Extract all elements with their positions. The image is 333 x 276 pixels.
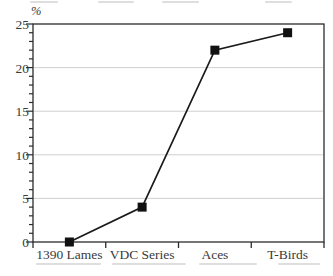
plot-frame bbox=[33, 24, 324, 242]
data-point-marker bbox=[283, 28, 292, 37]
data-point-marker bbox=[210, 46, 219, 55]
line-chart: 0 5 10 15 20 25 1390 Lames VDC Series Ac… bbox=[0, 0, 333, 276]
plot-area bbox=[26, 24, 324, 248]
cropped-text-artifact-bottom bbox=[112, 263, 186, 265]
x-category-label: 1390 Lames bbox=[36, 247, 102, 262]
y-tick-label: 0 bbox=[22, 235, 29, 250]
y-tick-label: 5 bbox=[22, 191, 29, 206]
data-point-marker bbox=[65, 238, 74, 247]
y-tick-label: 15 bbox=[16, 104, 30, 119]
y-tick-label: 20 bbox=[16, 61, 30, 76]
cropped-text-artifact-bottom bbox=[278, 263, 320, 265]
y-tick-label: 10 bbox=[16, 148, 30, 163]
x-category-label: T-Birds bbox=[267, 247, 308, 262]
cropped-text-artifact-bottom bbox=[36, 263, 101, 265]
y-tick-label: 25 bbox=[16, 17, 30, 32]
x-category-label: VDC Series bbox=[110, 247, 175, 262]
cropped-text-artifact-bottom bbox=[199, 263, 257, 265]
chart-figure: % 0 5 10 15 20 25 1390 Lames VDC Series … bbox=[0, 0, 333, 276]
data-point-marker bbox=[138, 203, 147, 212]
data-line bbox=[69, 33, 287, 242]
x-category-label: Aces bbox=[201, 247, 228, 262]
